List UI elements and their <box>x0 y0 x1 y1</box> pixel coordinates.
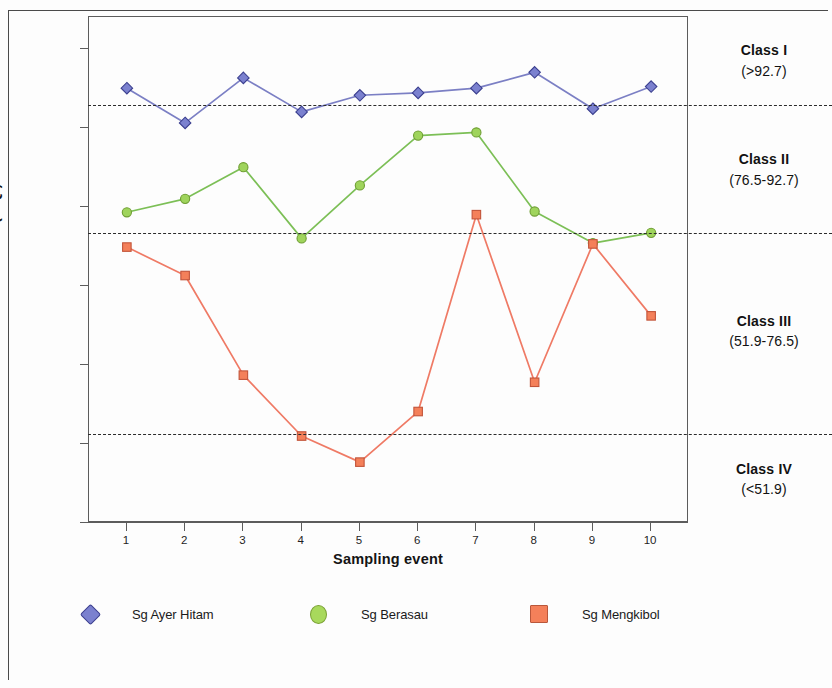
x-tick-mark <box>650 522 651 531</box>
class-annotation-range: (51.9-76.5) <box>700 331 828 351</box>
y-tick-mark <box>80 443 88 444</box>
y-axis-ticks: 100.0090.0080.0070.0060.0050.0040.00 <box>0 0 88 688</box>
data-point-marker <box>412 87 424 99</box>
class-annotation-name: Class IV <box>700 458 828 478</box>
threshold-line <box>88 233 832 234</box>
class-annotation: Class III(51.9-76.5) <box>700 310 828 351</box>
data-point-marker <box>122 208 131 217</box>
legend-marker-circle-icon <box>310 605 327 624</box>
data-point-marker <box>530 207 539 216</box>
x-tick-label: 3 <box>239 534 245 546</box>
data-point-marker <box>414 131 423 140</box>
plot-area <box>88 16 688 522</box>
class-annotation: Class IV(<51.9) <box>700 458 828 499</box>
x-tick-label: 6 <box>414 534 420 546</box>
series-line <box>127 132 651 243</box>
x-tick-mark <box>417 522 418 531</box>
legend-item[interactable]: Sg Ayer Hitam <box>80 596 214 632</box>
data-point-marker <box>296 106 308 118</box>
series-line <box>127 215 651 462</box>
y-tick-mark <box>80 127 88 128</box>
x-tick-label: 7 <box>472 534 478 546</box>
y-axis-title: Mean (WQI) <box>0 183 2 265</box>
y-tick-mark <box>80 364 88 365</box>
x-tick-mark <box>475 522 476 531</box>
chart-legend: Sg Ayer HitamSg BerasauSg Mengkibol <box>70 596 690 636</box>
series-group <box>122 128 655 248</box>
y-tick-mark <box>80 285 88 286</box>
x-axis-line <box>88 522 688 523</box>
legend-marker-square-icon <box>530 605 548 623</box>
series-group <box>123 210 656 466</box>
class-annotation: Class II(76.5-92.7) <box>700 149 828 190</box>
y-tick-mark <box>80 48 88 49</box>
data-point-marker <box>589 240 598 249</box>
figure-chart-wqi: 100.0090.0080.0070.0060.0050.0040.00 Mea… <box>0 0 832 688</box>
data-point-marker <box>121 82 133 94</box>
x-tick-mark <box>592 522 593 531</box>
data-point-marker <box>529 67 541 79</box>
x-tick-mark <box>126 522 127 531</box>
legend-label: Sg Ayer Hitam <box>132 607 214 622</box>
series-layer <box>89 17 689 523</box>
x-tick-label: 2 <box>181 534 187 546</box>
data-point-marker <box>181 271 190 280</box>
x-tick-label: 1 <box>123 534 129 546</box>
data-point-marker <box>356 458 365 467</box>
legend-item[interactable]: Sg Mengkibol <box>530 596 660 632</box>
y-tick-mark <box>80 206 88 207</box>
data-point-marker <box>123 243 132 252</box>
x-axis-title: Sampling event <box>88 551 688 567</box>
x-tick-mark <box>184 522 185 531</box>
data-point-marker <box>239 371 248 380</box>
legend-label: Sg Berasau <box>361 607 428 622</box>
data-point-marker <box>471 82 483 94</box>
threshold-line <box>88 105 832 106</box>
data-point-marker <box>530 378 539 387</box>
y-tick-mark <box>80 522 88 523</box>
data-point-marker <box>297 432 306 441</box>
legend-label: Sg Mengkibol <box>582 607 660 622</box>
data-point-marker <box>414 407 423 416</box>
x-tick-label: 8 <box>530 534 536 546</box>
data-point-marker <box>472 128 481 137</box>
legend-item[interactable]: Sg Berasau <box>310 596 428 632</box>
data-point-marker <box>354 90 366 102</box>
class-annotation-range: (76.5-92.7) <box>700 169 828 189</box>
data-point-marker <box>181 194 190 203</box>
page-border-top <box>8 10 828 11</box>
x-tick-label: 10 <box>644 534 657 546</box>
x-tick-mark <box>242 522 243 531</box>
class-annotation-name: Class I <box>700 40 828 60</box>
threshold-line <box>88 434 832 435</box>
class-annotation-name: Class III <box>700 310 828 330</box>
data-point-marker <box>647 312 656 321</box>
series-group <box>121 67 657 129</box>
x-tick-mark <box>359 522 360 531</box>
plot-inner <box>89 17 687 521</box>
x-tick-label: 4 <box>297 534 303 546</box>
x-tick-label: 9 <box>589 534 595 546</box>
x-tick-mark <box>534 522 535 531</box>
class-annotation: Class I(>92.7) <box>700 40 828 81</box>
data-point-marker <box>645 81 657 93</box>
data-point-marker <box>472 210 481 219</box>
legend-marker-diamond-icon <box>80 603 101 624</box>
data-point-marker <box>355 181 364 190</box>
x-tick-label: 5 <box>356 534 362 546</box>
class-annotation-range: (<51.9) <box>700 479 828 499</box>
class-annotation-name: Class II <box>700 149 828 169</box>
x-tick-mark <box>301 522 302 531</box>
series-line <box>127 72 651 123</box>
data-point-marker <box>239 163 248 172</box>
data-point-marker <box>297 234 306 243</box>
class-annotation-range: (>92.7) <box>700 60 828 80</box>
